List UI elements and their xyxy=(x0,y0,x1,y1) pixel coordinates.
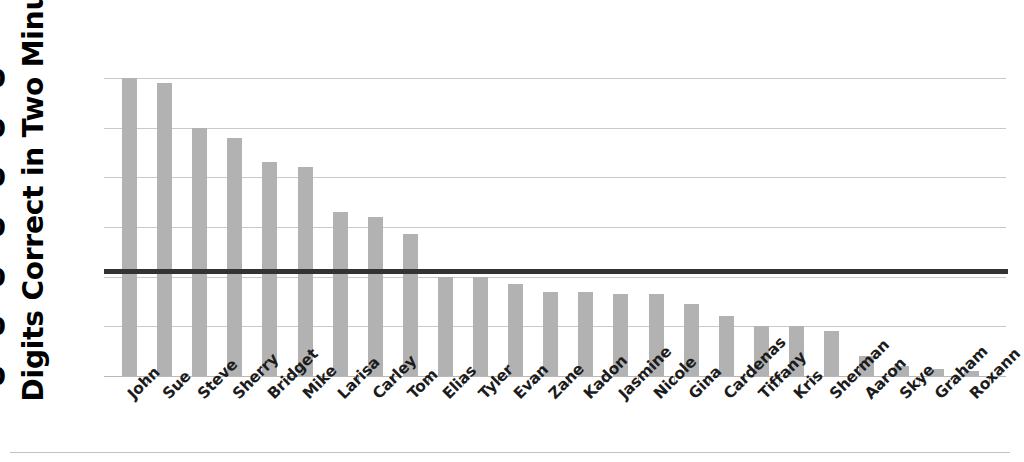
bar[interactable] xyxy=(333,212,348,376)
bar[interactable] xyxy=(438,277,453,376)
bar[interactable] xyxy=(719,316,734,376)
y-axis-tick-label: 50 xyxy=(0,115,6,140)
y-axis-tick-label: 40 xyxy=(0,165,6,190)
bar[interactable] xyxy=(227,138,242,376)
bar[interactable] xyxy=(157,83,172,376)
plot-area xyxy=(104,78,1006,376)
gridline xyxy=(104,128,1006,129)
y-axis-tick-label: 60 xyxy=(0,66,6,91)
y-axis-title: Digits Correct in Two Minutes xyxy=(17,12,50,402)
bar[interactable] xyxy=(122,78,137,376)
gridline xyxy=(104,78,1006,79)
y-axis-tick-label: 10 xyxy=(0,314,6,339)
bar[interactable] xyxy=(543,292,558,376)
bar[interactable] xyxy=(192,128,207,376)
mean-reference-line xyxy=(104,269,1008,274)
bar[interactable] xyxy=(578,292,593,376)
bottom-rule xyxy=(10,452,1010,453)
bar[interactable] xyxy=(508,284,523,376)
x-axis-line xyxy=(104,376,1006,377)
y-axis-tick-label: 20 xyxy=(0,264,6,289)
bar[interactable] xyxy=(824,331,839,376)
y-axis-tick-label: 30 xyxy=(0,215,6,240)
y-axis-tick-label: 0 xyxy=(0,364,6,389)
bar[interactable] xyxy=(473,277,488,376)
